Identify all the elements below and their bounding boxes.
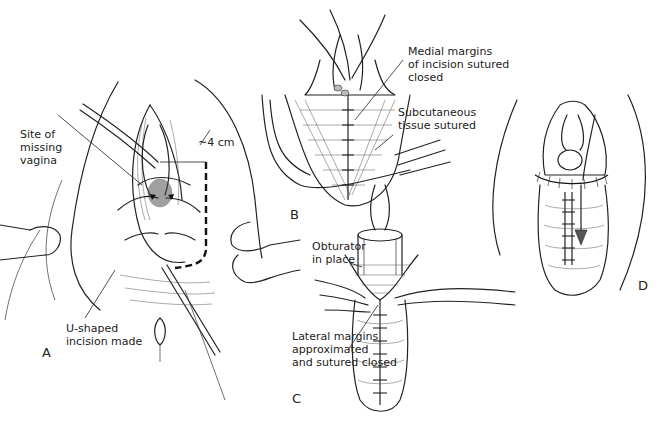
panel-letter-a: A [42,345,51,360]
panel-d-drawing [493,95,646,295]
surgical-illustration: Site of missing vagina ~4 cm U-shaped in… [0,0,672,421]
label-obturator-in-place: Obturator in place [312,240,366,266]
label-lateral-margins: Lateral margins approximated and sutured… [292,330,397,369]
label-site-of-missing-vagina: Site of missing vagina [20,128,62,167]
label-medial-margins: Medial margins of incision sutured close… [408,45,509,84]
label-measurement-4cm: ~4 cm [198,136,234,149]
panel-letter-c: C [292,391,301,406]
label-u-shaped-incision: U-shaped incision made [66,322,142,348]
label-subcutaneous-tissue: Subcutaneous tissue sutured [398,106,476,132]
panel-letter-d: D [638,278,648,293]
panel-letter-b: B [290,207,299,222]
panel-c-drawing [315,185,515,411]
